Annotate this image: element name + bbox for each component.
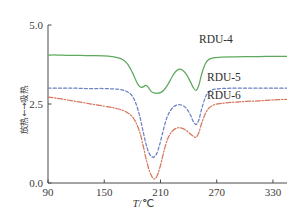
y-axis-title: 放热←→吸热	[17, 65, 29, 155]
y-tick-label: 5.0	[0, 19, 43, 31]
x-tick-label: 90	[43, 186, 54, 198]
x-tick-label: 330	[265, 186, 282, 198]
series-label-rdu-5: RDU-5	[207, 71, 241, 83]
x-axis-ticks	[48, 180, 273, 184]
series-line-rdu-4	[48, 55, 287, 93]
axis-lines	[48, 25, 287, 183]
series-line-rdu-6	[48, 97, 287, 179]
x-tick-label: 210	[152, 186, 169, 198]
data-series-group	[48, 55, 287, 179]
y-tick-label: 0.0	[0, 177, 43, 189]
series-line-rdu-5	[48, 88, 287, 157]
dsc-chart-figure: 90150210270330 0.02.55.0 T/℃ 放热←→吸热 RDU-…	[0, 0, 287, 222]
series-label-rdu-6: RDU-6	[207, 89, 241, 101]
x-axis-unit: /℃	[139, 197, 154, 209]
y-axis-ticks	[48, 25, 52, 183]
x-axis-title: T/℃	[132, 197, 153, 210]
series-label-rdu-4: RDU-4	[199, 33, 233, 45]
x-tick-label: 270	[208, 186, 225, 198]
x-tick-label: 150	[96, 186, 113, 198]
